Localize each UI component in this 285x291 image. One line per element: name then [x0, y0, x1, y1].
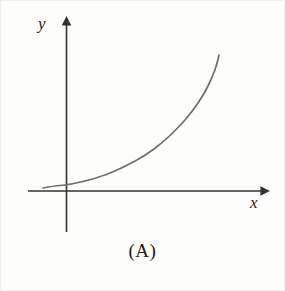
panel-caption: (A): [0, 240, 285, 262]
exponential-curve: [43, 55, 219, 188]
x-axis-label: x: [250, 194, 258, 211]
y-axis-label: y: [38, 15, 46, 32]
figure-panel: y x (A): [0, 0, 285, 291]
